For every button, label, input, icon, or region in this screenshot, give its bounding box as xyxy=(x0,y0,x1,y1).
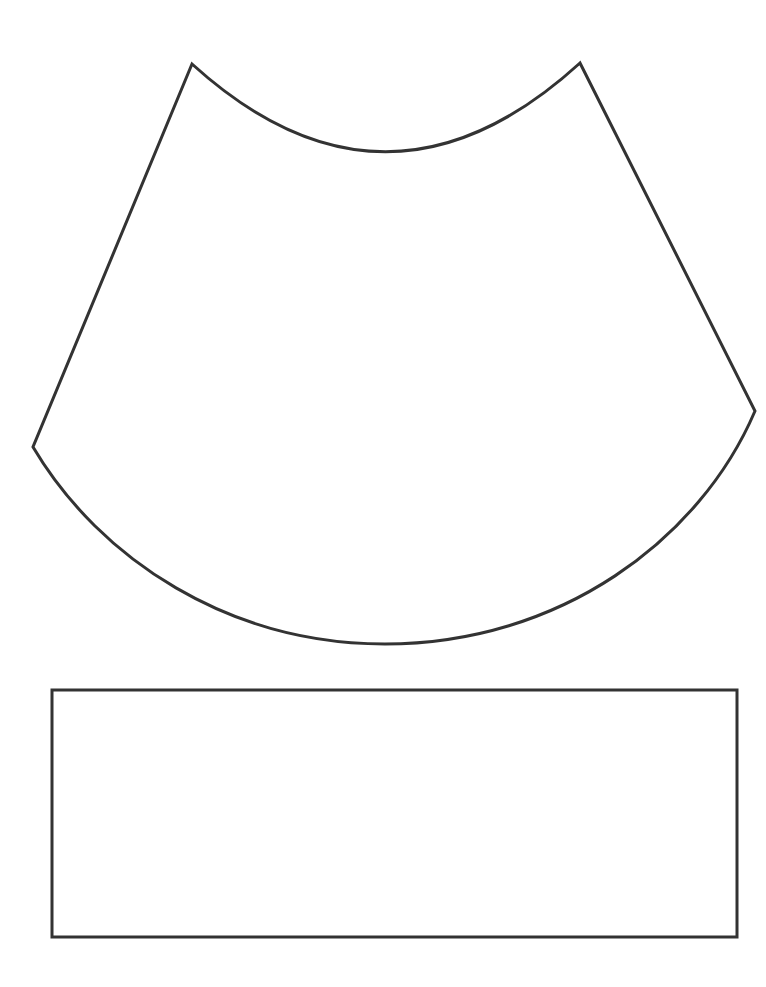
rectangle-shape xyxy=(52,690,737,937)
annular-sector-shape xyxy=(33,63,755,644)
cone-net-diagram xyxy=(0,0,766,987)
